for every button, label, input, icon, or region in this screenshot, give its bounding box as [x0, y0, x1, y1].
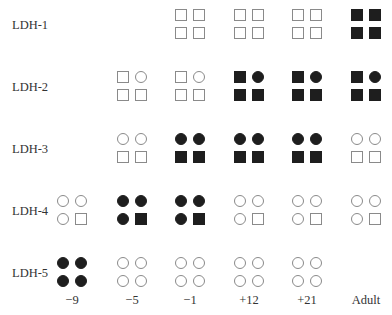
open-circle-icon: [193, 257, 205, 269]
tetramer-ldh-1-col4: [292, 9, 323, 40]
filled-circle-icon: [193, 133, 205, 145]
open-square-icon: [175, 89, 187, 101]
open-square-icon: [252, 9, 264, 21]
tetramer-ldh-2-col2: [175, 71, 206, 102]
open-square-icon: [135, 89, 147, 101]
tetramer-ldh-5-col0: [57, 257, 88, 288]
tetramer-ldh-1-col2: [175, 9, 206, 40]
filled-circle-icon: [175, 195, 187, 207]
open-circle-icon: [135, 257, 147, 269]
column-label: −1: [160, 293, 220, 307]
filled-square-icon: [292, 151, 304, 163]
filled-square-icon: [369, 27, 381, 39]
filled-square-icon: [175, 151, 187, 163]
filled-square-icon: [351, 27, 363, 39]
open-circle-icon: [351, 195, 363, 207]
tetramer-ldh-4-col1: [117, 195, 148, 226]
filled-circle-icon: [117, 213, 129, 225]
filled-circle-icon: [310, 71, 322, 83]
ldh-isozyme-diagram: LDH-1LDH-2LDH-3LDH-4LDH-5−9−5−1+12+21Adu…: [0, 0, 392, 315]
tetramer-ldh-3-col3: [234, 133, 265, 164]
open-circle-icon: [310, 257, 322, 269]
filled-circle-icon: [57, 275, 69, 287]
open-circle-icon: [135, 133, 147, 145]
open-square-icon: [117, 71, 129, 83]
tetramer-ldh-3-col5: [351, 133, 382, 164]
open-square-icon: [175, 27, 187, 39]
open-circle-icon: [351, 133, 363, 145]
open-square-icon: [292, 27, 304, 39]
open-square-icon: [75, 213, 87, 225]
open-circle-icon: [175, 275, 187, 287]
filled-square-icon: [252, 89, 264, 101]
open-circle-icon: [117, 133, 129, 145]
open-circle-icon: [75, 195, 87, 207]
filled-square-icon: [292, 71, 304, 83]
row-label-ldh-2: LDH-2: [12, 80, 48, 94]
open-circle-icon: [135, 275, 147, 287]
open-circle-icon: [351, 213, 363, 225]
open-square-icon: [193, 27, 205, 39]
filled-square-icon: [252, 151, 264, 163]
filled-circle-icon: [117, 195, 129, 207]
open-circle-icon: [117, 275, 129, 287]
column-label: +21: [277, 293, 337, 307]
open-square-icon: [310, 9, 322, 21]
open-square-icon: [234, 9, 246, 21]
column-label: Adult: [336, 293, 392, 307]
open-square-icon: [310, 213, 322, 225]
open-square-icon: [369, 213, 381, 225]
open-circle-icon: [252, 257, 264, 269]
tetramer-ldh-4-col5: [351, 195, 382, 226]
filled-square-icon: [234, 89, 246, 101]
row-label-ldh-1: LDH-1: [12, 18, 48, 32]
open-circle-icon: [252, 275, 264, 287]
filled-circle-icon: [234, 133, 246, 145]
filled-square-icon: [135, 213, 147, 225]
open-circle-icon: [252, 195, 264, 207]
open-square-icon: [175, 9, 187, 21]
tetramer-ldh-2-col3: [234, 71, 265, 102]
open-square-icon: [193, 9, 205, 21]
open-circle-icon: [310, 275, 322, 287]
filled-square-icon: [292, 89, 304, 101]
tetramer-ldh-5-col2: [175, 257, 206, 288]
open-square-icon: [117, 151, 129, 163]
filled-square-icon: [351, 71, 363, 83]
open-circle-icon: [57, 213, 69, 225]
open-square-icon: [369, 151, 381, 163]
tetramer-ldh-2-col1: [117, 71, 148, 102]
open-circle-icon: [234, 257, 246, 269]
row-label-ldh-5: LDH-5: [12, 266, 48, 280]
open-square-icon: [252, 27, 264, 39]
open-square-icon: [292, 9, 304, 21]
open-square-icon: [135, 151, 147, 163]
tetramer-ldh-5-col3: [234, 257, 265, 288]
open-circle-icon: [175, 257, 187, 269]
open-circle-icon: [234, 195, 246, 207]
column-label: −5: [102, 293, 162, 307]
filled-circle-icon: [175, 213, 187, 225]
filled-square-icon: [369, 89, 381, 101]
open-square-icon: [252, 213, 264, 225]
open-circle-icon: [292, 213, 304, 225]
tetramer-ldh-3-col4: [292, 133, 323, 164]
column-label: −9: [42, 293, 102, 307]
tetramer-ldh-4-col3: [234, 195, 265, 226]
filled-circle-icon: [75, 275, 87, 287]
filled-circle-icon: [193, 195, 205, 207]
filled-circle-icon: [252, 133, 264, 145]
open-circle-icon: [369, 133, 381, 145]
column-label: +12: [219, 293, 279, 307]
tetramer-ldh-4-col2: [175, 195, 206, 226]
open-square-icon: [193, 89, 205, 101]
filled-circle-icon: [135, 195, 147, 207]
filled-square-icon: [310, 151, 322, 163]
open-circle-icon: [310, 195, 322, 207]
filled-circle-icon: [310, 133, 322, 145]
filled-circle-icon: [292, 133, 304, 145]
open-square-icon: [117, 89, 129, 101]
open-circle-icon: [369, 195, 381, 207]
filled-circle-icon: [75, 257, 87, 269]
open-square-icon: [234, 27, 246, 39]
